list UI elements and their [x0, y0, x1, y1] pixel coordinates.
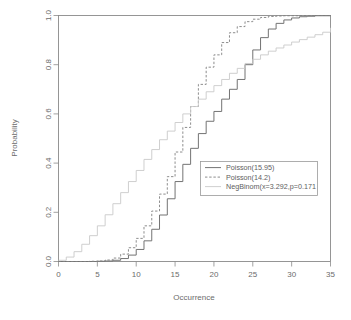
legend: Poisson(15.95)Poisson(14.2)NegBinom(x=3.…	[201, 162, 318, 196]
y-tick-label: 0.6	[44, 108, 53, 120]
y-axis-ticks: 0.00.20.40.60.81.0	[44, 9, 59, 267]
x-tick-label: 10	[132, 270, 141, 279]
y-axis-title: Probability	[10, 119, 19, 156]
x-tick-label: 0	[56, 270, 61, 279]
data-series-layer	[59, 16, 331, 262]
x-tick-label: 15	[171, 270, 180, 279]
y-tick-label: 0.0	[44, 255, 53, 267]
series-line-2	[59, 28, 331, 260]
y-tick-label: 1.0	[44, 9, 53, 21]
x-axis-title: Occurrence	[173, 293, 215, 302]
x-tick-label: 35	[326, 270, 335, 279]
series-line-1	[59, 16, 331, 262]
x-tick-label: 25	[248, 270, 257, 279]
legend-label-2: NegBinom(x=3.292,p=0.171	[226, 182, 316, 191]
x-axis-ticks: 05101520253035	[56, 262, 335, 279]
y-tick-label: 0.2	[44, 206, 53, 218]
cdf-plot-figure: 05101520253035 0.00.20.40.60.81.0 Occurr…	[0, 0, 351, 320]
x-tick-label: 5	[95, 270, 100, 279]
x-tick-label: 20	[209, 270, 218, 279]
x-tick-label: 30	[287, 270, 296, 279]
legend-label-1: Poisson(14.2)	[226, 173, 270, 182]
series-line-0	[59, 16, 331, 262]
y-tick-label: 0.4	[44, 157, 53, 169]
y-tick-label: 0.8	[44, 59, 53, 71]
legend-label-0: Poisson(15.95)	[226, 163, 274, 172]
plot-frame	[59, 16, 331, 262]
plot-canvas: 05101520253035 0.00.20.40.60.81.0 Occurr…	[0, 0, 351, 320]
